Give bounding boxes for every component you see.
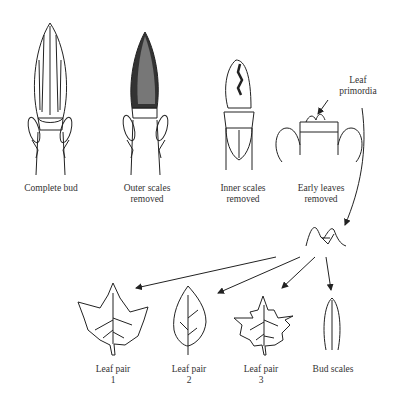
- label-line: Early leaves: [290, 183, 352, 194]
- inner-scales-removed-drawing: [224, 60, 254, 170]
- label-line: Leaf pair: [88, 364, 138, 375]
- product-label-leaf-pair-1: Leaf pair 1: [88, 364, 138, 386]
- label-line: Complete bud: [14, 183, 88, 194]
- annotation-leaf-primordia: Leaf primordia: [330, 75, 386, 97]
- bud-scales-drawing: [324, 298, 340, 350]
- outer-scales-removed-drawing: [121, 32, 170, 175]
- label-line: Bud scales: [305, 364, 361, 375]
- label-line: Inner scales: [212, 183, 274, 194]
- label-line: Leaf pair: [164, 364, 214, 375]
- leaf-pair-2-drawing: [174, 286, 206, 355]
- product-label-bud-scales: Bud scales: [305, 364, 361, 375]
- label-line: Leaf: [330, 75, 386, 86]
- label-line: Outer scales: [113, 183, 181, 194]
- label-line: Leaf pair: [236, 364, 286, 375]
- label-line: removed: [113, 194, 181, 205]
- product-label-leaf-pair-2: Leaf pair 2: [164, 364, 214, 386]
- stage-label-outer-scales: Outer scales removed: [113, 183, 181, 205]
- label-line: removed: [212, 194, 274, 205]
- early-leaves-removed-drawing: [276, 100, 362, 162]
- stage-label-inner-scales: Inner scales removed: [212, 183, 274, 205]
- label-line: removed: [290, 194, 352, 205]
- product-label-leaf-pair-3: Leaf pair 3: [236, 364, 286, 386]
- complete-bud-drawing: [26, 23, 74, 175]
- label-line: 3: [236, 375, 286, 386]
- label-line: primordia: [330, 86, 386, 97]
- leaf-pair-3-drawing: [234, 296, 293, 355]
- leaf-pair-1-drawing: [78, 283, 148, 355]
- stage-label-early-leaves: Early leaves removed: [290, 183, 352, 205]
- stage-label-complete-bud: Complete bud: [14, 183, 88, 194]
- label-line: 1: [88, 375, 138, 386]
- primordia-enlargement-drawing: [306, 228, 346, 246]
- label-line: 2: [164, 375, 214, 386]
